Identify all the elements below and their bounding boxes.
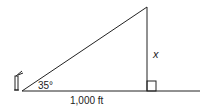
height-label: x [152, 48, 159, 60]
base-length-label: 1,000 ft [70, 95, 104, 106]
right-angle-marker [147, 81, 156, 91]
angle-label: 35° [38, 80, 53, 91]
hypotenuse-line [22, 7, 147, 91]
triangle-diagram: 35° 1,000 ft x [0, 0, 210, 110]
person-with-telescope-icon [14, 71, 23, 90]
